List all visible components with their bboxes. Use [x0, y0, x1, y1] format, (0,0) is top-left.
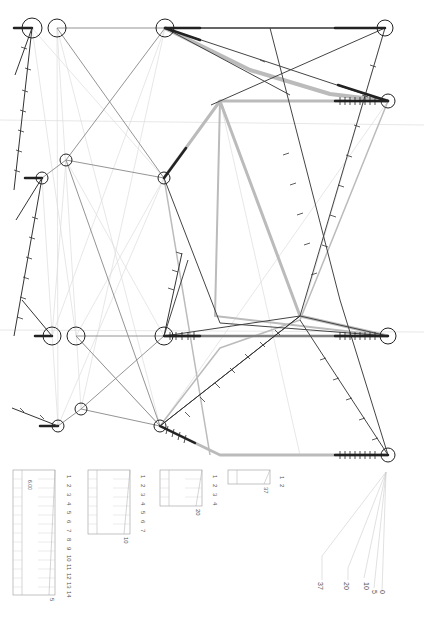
legend-4-scale: 37	[263, 487, 269, 494]
width-key	[322, 472, 386, 592]
ticked-edges	[12, 28, 300, 426]
legend-4-ticks: 1 2	[279, 476, 285, 488]
legend-2-scale: 10	[123, 537, 129, 544]
svg-text:20: 20	[343, 582, 350, 590]
svg-text:37: 37	[317, 582, 324, 590]
legend-2-ticks: 1 2 3 4 5 6 7	[140, 475, 146, 533]
legend-4: 1 2 37	[228, 470, 285, 494]
legend-3-ticks: 1 2 3 4	[212, 475, 218, 506]
legend-3: 1 2 3 4 20	[160, 470, 218, 516]
legend-1-note: 6.00	[27, 480, 33, 490]
legend-1: 1 2 3 4 5 6 7 8 9 10 11 12 13 14 6.00 5	[13, 470, 72, 602]
legend-3-scale: 20	[195, 509, 201, 516]
tick-marks	[14, 47, 378, 440]
flow-bands	[160, 28, 388, 455]
arrow-tick-clusters	[166, 97, 375, 459]
svg-text:10: 10	[363, 582, 370, 590]
dark-edges	[160, 28, 388, 455]
width-key-labels: 37 20 10 5 0	[317, 582, 386, 594]
legend-1-ticks: 1 2 3 4 5 6 7 8 9 10 11 12 13 14	[66, 475, 72, 598]
network-diagram: 1 2 3 4 5 6 7 8 9 10 11 12 13 14 6.00 5	[0, 0, 424, 623]
legend-2: 1 2 3 4 5 6 7 10	[88, 470, 146, 544]
svg-text:5: 5	[371, 590, 378, 594]
medium-edges	[42, 28, 385, 426]
svg-text:0: 0	[379, 590, 386, 594]
legend-1-scale: 5	[49, 598, 55, 602]
